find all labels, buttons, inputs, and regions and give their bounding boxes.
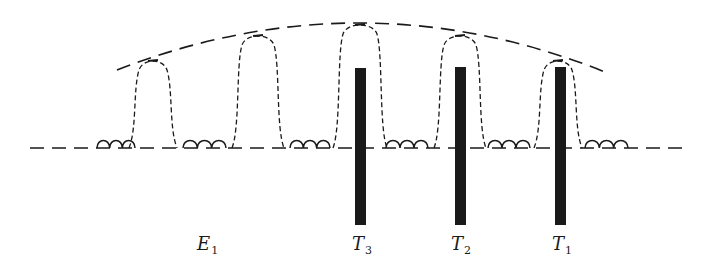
label-T3: T3 (352, 233, 372, 257)
peak-cap-p1 (148, 60, 158, 61)
peak-cap-p3 (355, 24, 365, 25)
bar-T1 (555, 67, 566, 225)
ripple-5 (488, 141, 530, 149)
ripple-2 (183, 141, 226, 149)
peak-cap-p4 (455, 35, 465, 36)
label-E1: E1 (196, 233, 218, 257)
peak-cap-p2 (253, 35, 263, 36)
spectral-diagram: E1T3T2T1 (0, 0, 705, 269)
ripple-4 (386, 141, 428, 149)
envelope-dashed-curve (117, 23, 605, 72)
peak-cap-p5 (553, 60, 563, 61)
peak-curve-p2 (232, 36, 284, 148)
label-T2: T2 (451, 233, 471, 257)
ripple-3 (290, 141, 330, 149)
peak-curve-p1 (129, 61, 177, 148)
bar-T3 (355, 68, 366, 225)
bar-T2 (455, 67, 466, 225)
label-T1: T1 (552, 233, 572, 257)
level-labels: E1T3T2T1 (196, 233, 572, 257)
ripple-6 (585, 141, 628, 149)
